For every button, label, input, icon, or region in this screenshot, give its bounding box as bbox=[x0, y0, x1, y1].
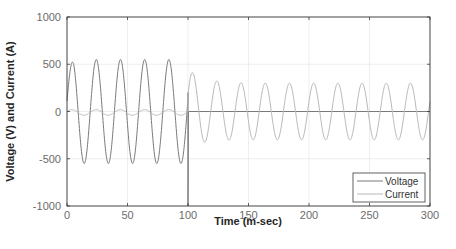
x-tick-label: 300 bbox=[421, 209, 439, 221]
legend-current-label: Current bbox=[385, 189, 419, 200]
x-axis-title: Time (m-sec) bbox=[214, 215, 282, 227]
x-tick-label: 50 bbox=[121, 209, 133, 221]
y-tick-label: 0 bbox=[55, 106, 61, 118]
x-tick-label: 100 bbox=[179, 209, 197, 221]
legend-voltage-label: Voltage bbox=[385, 176, 419, 187]
y-tick-label: 1000 bbox=[37, 11, 61, 23]
x-tick-label: 200 bbox=[300, 209, 318, 221]
x-tick-label: 0 bbox=[64, 209, 70, 221]
y-tick-label: -500 bbox=[39, 153, 61, 165]
x-tick-label: 250 bbox=[360, 209, 378, 221]
y-axis-title: Voltage (V) and Current (A) bbox=[4, 41, 16, 182]
y-tick-label: 500 bbox=[43, 58, 61, 70]
chart-figure: 050100150200250300 -1000-50005001000 Tim… bbox=[0, 0, 456, 249]
legend: Voltage Current bbox=[353, 173, 425, 202]
y-tick-label: -1000 bbox=[33, 200, 61, 212]
